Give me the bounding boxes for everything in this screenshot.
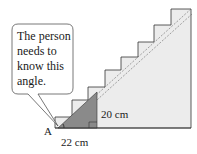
rise-label: 20 cm (101, 108, 129, 120)
callout-line-1: The person (17, 29, 71, 43)
vertex-label-a: A (44, 125, 52, 137)
staircase-diagram: The person needs to know this angle. A 2… (0, 0, 197, 154)
callout-line-3: know this (17, 59, 64, 73)
rise-run-triangle (58, 92, 97, 128)
callout-line-4: angle. (17, 74, 46, 88)
run-label: 22 cm (61, 136, 89, 148)
callout-line-2: needs to (17, 44, 57, 58)
